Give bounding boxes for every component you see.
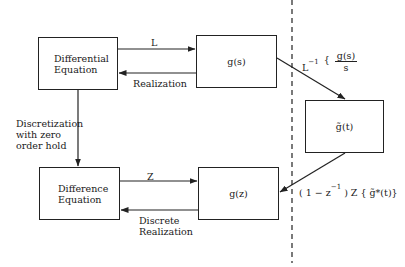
g-tilde-t-label: g̃(t) (336, 121, 353, 132)
zoh-z-transform-label: ( 1 − z−1 ) Z { g̃*(t)} (299, 185, 398, 198)
inverse-laplace-label: L−1 { (302, 60, 330, 73)
zoh-exponent: −1 (331, 183, 341, 191)
laplace-label: L (151, 37, 157, 48)
realization-label: Realization (133, 78, 187, 89)
inverse-laplace-bracket: { (324, 54, 330, 65)
g-z-box: g(z) (198, 167, 279, 220)
g-z-label: g(z) (229, 188, 248, 199)
differential-equation-box: Differential Equation (38, 37, 118, 90)
discretization-line2: with zero (16, 129, 83, 140)
difference-equation-box: Difference Equation (39, 167, 120, 220)
discrete-realization-line2: Realization (139, 226, 193, 237)
g-tilde-t-box: g̃(t) (305, 100, 384, 153)
fraction-numerator: g(s) (335, 50, 357, 62)
discretization-line1: Discretization (16, 118, 83, 129)
fraction-denominator: s (335, 62, 357, 73)
zoh-open: ( 1 − z (299, 187, 331, 198)
differential-equation-line1: Differential (54, 53, 109, 64)
discretization-label: Discretization with zero order hold (16, 118, 83, 151)
discrete-realization-label: Discrete Realization (139, 215, 193, 237)
inverse-laplace-exponent: −1 (308, 58, 318, 66)
difference-equation-line2: Equation (58, 194, 108, 205)
g-s-box: g(s) (196, 35, 277, 88)
differential-equation-line2: Equation (54, 64, 109, 75)
discrete-realization-line1: Discrete (139, 215, 193, 226)
discretization-line3: order hold (16, 140, 83, 151)
difference-equation-line1: Difference (58, 183, 108, 194)
g-s-label: g(s) (227, 56, 245, 67)
z-transform-label: Z (147, 171, 154, 182)
zoh-rest: ) Z { g̃*(t)} (341, 187, 398, 198)
